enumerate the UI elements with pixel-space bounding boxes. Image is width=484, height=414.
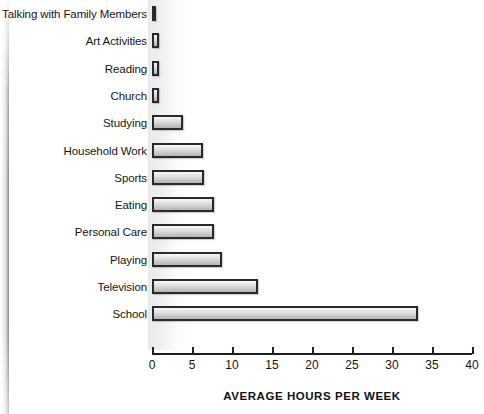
bar-row: Studying (0, 115, 484, 131)
bar-category-label: Television (0, 279, 152, 295)
x-axis-tick-label: 20 (292, 357, 332, 373)
bar-row: Eating (0, 197, 484, 213)
bar-category-label: Eating (0, 197, 152, 213)
bar-row: Church (0, 88, 484, 104)
bar (152, 252, 222, 267)
bar (152, 33, 159, 48)
x-axis-tick (352, 347, 354, 354)
bar-row: Household Work (0, 143, 484, 159)
x-axis-tick-label: 35 (412, 357, 452, 373)
x-axis-tick-label: 30 (372, 357, 412, 373)
x-axis-title: AVERAGE HOURS PER WEEK (152, 390, 472, 402)
bar (152, 88, 159, 103)
x-axis-tick-label: 25 (332, 357, 372, 373)
bar (152, 115, 183, 130)
bar-row: Television (0, 279, 484, 295)
bar-category-label: Art Activities (0, 33, 152, 49)
x-axis-tick (232, 347, 234, 354)
bar-category-label: Personal Care (0, 224, 152, 240)
bar-row: Art Activities (0, 33, 484, 49)
bar-row: Personal Care (0, 224, 484, 240)
x-axis-tick (312, 347, 314, 354)
x-axis-tick (472, 347, 474, 354)
bar-category-label: Studying (0, 115, 152, 131)
bar-row: School (0, 306, 484, 322)
bar (152, 279, 258, 294)
bar (152, 61, 159, 76)
x-axis-tick-label: 40 (452, 357, 484, 373)
bar (152, 306, 418, 321)
bar (152, 197, 214, 212)
x-axis-tick (152, 347, 154, 354)
bar-row: Reading (0, 61, 484, 77)
bar-category-label: Sports (0, 170, 152, 186)
bar-row: Talking with Family Members (0, 6, 484, 22)
x-axis-tick (392, 347, 394, 354)
bar-category-label: Talking with Family Members (0, 6, 152, 22)
x-axis-tick (192, 347, 194, 354)
x-axis-tick-label: 0 (132, 357, 172, 373)
bar (152, 143, 203, 158)
bar-category-label: Reading (0, 61, 152, 77)
bar (152, 224, 214, 239)
bar (152, 6, 156, 21)
bar-row: Playing (0, 252, 484, 268)
bar-category-label: Playing (0, 252, 152, 268)
x-axis-tick (432, 347, 434, 354)
horizontal-bar-chart: Talking with Family MembersArt Activitie… (0, 0, 484, 414)
bar-category-label: School (0, 306, 152, 322)
bar-category-label: Church (0, 88, 152, 104)
x-axis-tick (272, 347, 274, 354)
x-axis-tick-label: 5 (172, 357, 212, 373)
bar-category-label: Household Work (0, 143, 152, 159)
bar (152, 170, 204, 185)
x-axis-tick-label: 10 (212, 357, 252, 373)
x-axis-tick-label: 15 (252, 357, 292, 373)
bar-row: Sports (0, 170, 484, 186)
